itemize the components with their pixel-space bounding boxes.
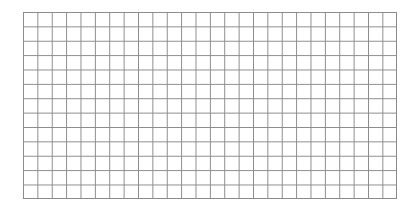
grid-paper bbox=[23, 12, 397, 199]
